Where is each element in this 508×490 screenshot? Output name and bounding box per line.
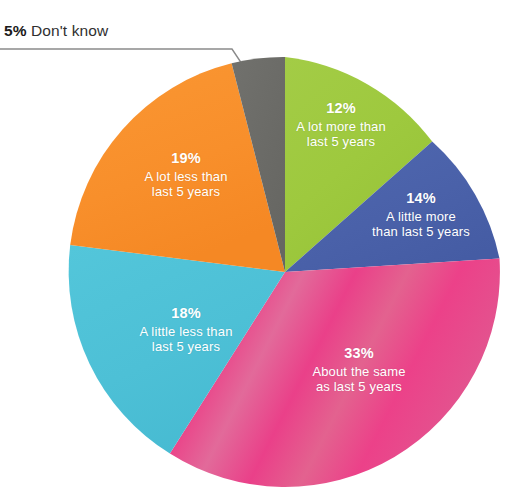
pie-chart-figure: 5% Don't know [0, 0, 508, 490]
pie-chart-svg [0, 0, 508, 490]
